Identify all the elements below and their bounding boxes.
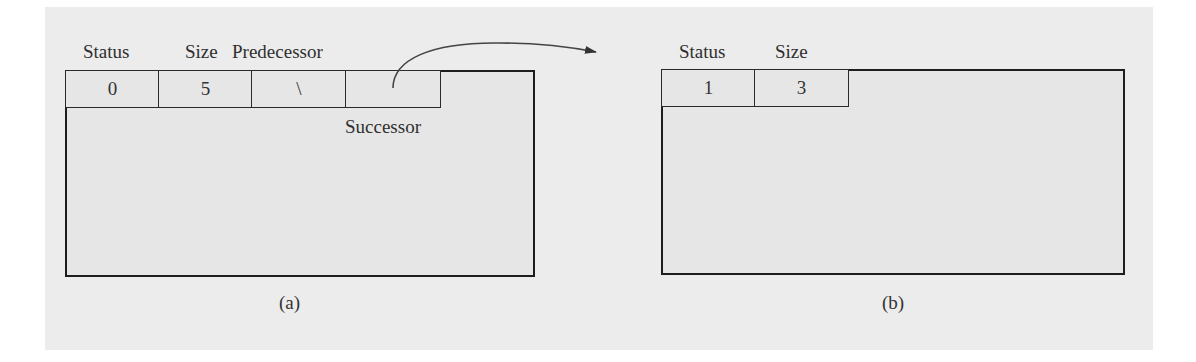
cell-status-b-value: 1 bbox=[704, 77, 714, 99]
cell-status-b: 1 bbox=[661, 69, 756, 107]
label-size-b: Size bbox=[775, 42, 808, 61]
cell-size-b-value: 3 bbox=[797, 77, 807, 99]
caption-b: (b) bbox=[882, 293, 904, 312]
label-status-b: Status bbox=[679, 42, 725, 61]
cell-size-b: 3 bbox=[754, 69, 849, 107]
